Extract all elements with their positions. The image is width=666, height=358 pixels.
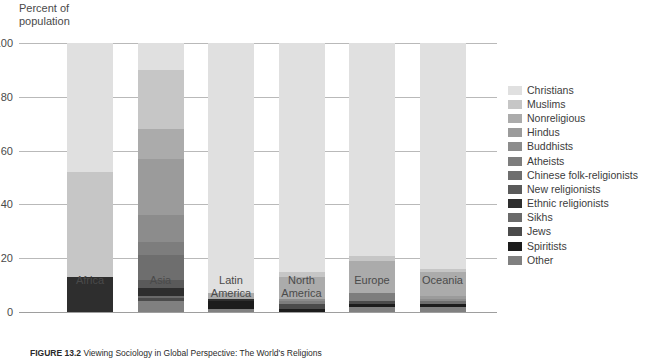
gridline-0: 0 (19, 312, 497, 313)
legend-swatch-icon (508, 199, 522, 208)
y-axis-title: Percent of population (19, 2, 70, 28)
legend-item[interactable]: Buddhists (508, 140, 666, 154)
y-tick-label-100: 100 (0, 37, 13, 49)
legend-item-label: Chinese folk-religionists (527, 170, 638, 181)
legend-swatch-icon (508, 213, 522, 222)
legend-item-label: Jews (527, 226, 551, 237)
figure-caption-text: Viewing Sociology in Global Perspective:… (83, 348, 321, 358)
legend-swatch-icon (508, 128, 522, 137)
legend-item[interactable]: Muslims (508, 97, 666, 111)
legend-swatch-icon (508, 100, 522, 109)
x-tick-label-asia: Asia (121, 274, 201, 287)
bar-segment-atheists[interactable] (138, 242, 184, 255)
bar-segment-other[interactable] (208, 309, 254, 312)
legend-item-label: Ethnic religionists (527, 198, 609, 209)
chart-plot-area: 020406080100 (19, 43, 497, 312)
bar-segment-christians[interactable] (279, 43, 325, 272)
bar-africa[interactable] (67, 43, 113, 312)
legend-item[interactable]: Sikhs (508, 211, 666, 225)
legend-item-label: New religionists (527, 184, 601, 195)
legend-item-label: Spiritists (527, 241, 567, 252)
legend-item-label: Hindus (527, 127, 560, 138)
bar-north-america[interactable] (279, 43, 325, 312)
bar-segment-spiritists[interactable] (279, 309, 325, 312)
legend-item-label: Nonreligious (527, 113, 585, 124)
legend-swatch-icon (508, 157, 522, 166)
bar-segment-spiritists[interactable] (208, 301, 254, 309)
legend-swatch-icon (508, 171, 522, 180)
legend-swatch-icon (508, 256, 522, 265)
x-tick-label-africa: Africa (50, 274, 130, 287)
bar-segment-christians[interactable] (138, 43, 184, 70)
legend-swatch-icon (508, 185, 522, 194)
legend-swatch-icon (508, 114, 522, 123)
bar-segment-christians[interactable] (67, 43, 113, 172)
bar-segment-buddhists[interactable] (138, 215, 184, 242)
legend-swatch-icon (508, 227, 522, 236)
bar-segment-atheists[interactable] (349, 293, 395, 301)
bar-oceania[interactable] (420, 43, 466, 312)
bar-segment-nonreligious[interactable] (138, 129, 184, 159)
legend-item[interactable]: Chinese folk-religionists (508, 168, 666, 182)
bar-segment-christians[interactable] (349, 43, 395, 256)
bar-asia[interactable] (138, 43, 184, 312)
legend-swatch-icon (508, 242, 522, 251)
bar-segment-other[interactable] (349, 307, 395, 312)
bar-latin-america[interactable] (208, 43, 254, 312)
figure-caption: FIGURE 13.2 Viewing Sociology in Global … (30, 348, 500, 358)
legend-item-label: Atheists (527, 156, 564, 167)
bar-segment-muslims[interactable] (67, 172, 113, 277)
legend-swatch-icon (508, 86, 522, 95)
legend-item-label: Sikhs (527, 212, 553, 223)
bar-segment-other[interactable] (138, 301, 184, 312)
bar-segment-ethnic-religionists[interactable] (138, 288, 184, 296)
legend-item-label: Other (527, 255, 553, 266)
bar-europe[interactable] (349, 43, 395, 312)
y-tick-label-80: 80 (1, 91, 13, 103)
y-tick-label-40: 40 (1, 198, 13, 210)
legend-item-label: Muslims (527, 99, 566, 110)
x-tick-label-latin-america: Latin America (191, 274, 271, 299)
bar-segment-muslims[interactable] (138, 70, 184, 129)
legend-item[interactable]: Nonreligious (508, 111, 666, 125)
legend-item-label: Christians (527, 85, 574, 96)
legend-item[interactable]: Spiritists (508, 239, 666, 253)
legend-item-label: Buddhists (527, 141, 573, 152)
y-tick-label-60: 60 (1, 145, 13, 157)
chart-legend: ChristiansMuslimsNonreligiousHindusBuddh… (508, 83, 666, 267)
legend-item[interactable]: Atheists (508, 154, 666, 168)
figure-caption-label: FIGURE 13.2 (30, 348, 81, 358)
legend-item[interactable]: Hindus (508, 126, 666, 140)
x-tick-label-oceania: Oceania (403, 274, 483, 287)
legend-item[interactable]: New religionists (508, 182, 666, 196)
legend-item[interactable]: Ethnic religionists (508, 197, 666, 211)
bar-segment-hindus[interactable] (138, 159, 184, 215)
bar-segment-christians[interactable] (420, 43, 466, 269)
legend-item[interactable]: Other (508, 253, 666, 267)
legend-swatch-icon (508, 142, 522, 151)
x-tick-label-europe: Europe (332, 274, 412, 287)
bar-segment-christians[interactable] (208, 43, 254, 293)
legend-item[interactable]: Jews (508, 225, 666, 239)
legend-item[interactable]: Christians (508, 83, 666, 97)
y-tick-label-20: 20 (1, 252, 13, 264)
x-tick-label-north-america: North America (262, 274, 342, 299)
bar-segment-other[interactable] (420, 307, 466, 312)
y-tick-label-0: 0 (7, 306, 13, 318)
